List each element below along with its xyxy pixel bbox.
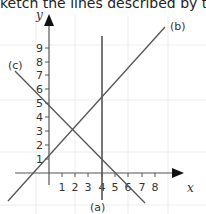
line-c [15,71,145,203]
line-c-label: (c) [8,59,23,72]
svg-text:1: 1 [59,181,66,194]
svg-text:8: 8 [36,56,43,69]
svg-text:7: 7 [139,181,146,194]
coordinate-plane: 1 2 3 4 5 6 7 8 1 2 3 4 5 6 7 8 9 (b) (c… [0,0,206,214]
svg-text:3: 3 [36,125,43,138]
svg-text:3: 3 [85,181,92,194]
svg-text:2: 2 [36,139,43,152]
line-b-label: (b) [170,20,186,33]
x-axis-arrow-icon [172,168,184,178]
svg-text:4: 4 [36,111,43,124]
svg-text:5: 5 [112,181,119,194]
svg-text:9: 9 [36,42,43,55]
svg-text:8: 8 [152,181,159,194]
y-axis-label: y [35,8,43,22]
x-tick-labels: 1 2 3 4 5 6 7 8 [59,181,159,194]
y-axis-arrow-icon [44,14,54,26]
x-axis-label: x [187,181,194,195]
line-b [8,27,165,201]
svg-text:2: 2 [72,181,79,194]
svg-text:7: 7 [36,69,43,82]
x-ticks [62,173,155,177]
y-tick-labels: 1 2 3 4 5 6 7 8 9 [36,42,43,166]
line-a-label: (a) [90,201,105,214]
x-axis [15,168,184,178]
